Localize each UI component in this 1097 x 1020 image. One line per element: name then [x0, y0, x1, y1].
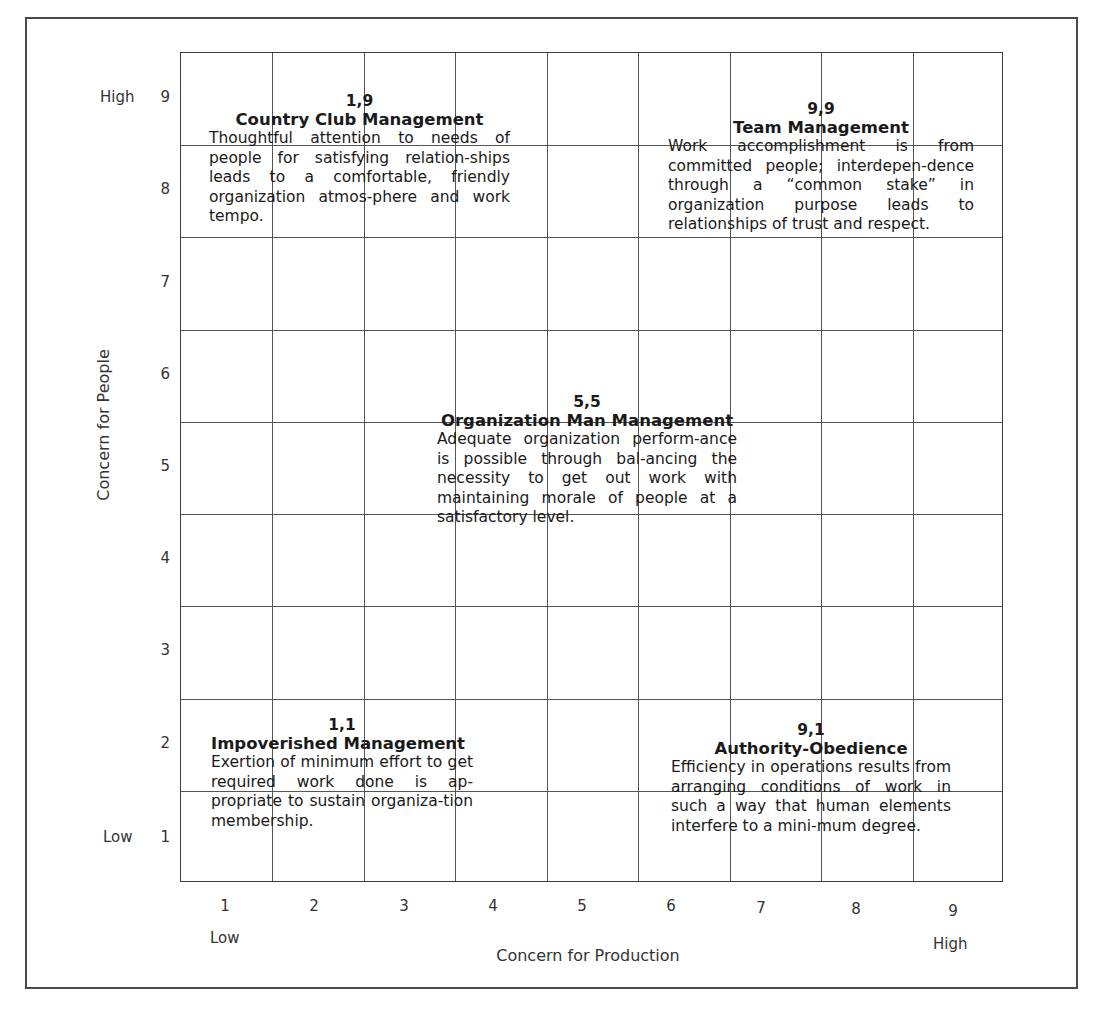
style-description: Efficiency in operations results from ar… [671, 758, 951, 836]
style-coordinate: 9,1 [671, 721, 951, 739]
x-axis-label: Concern for Production [496, 946, 679, 965]
style-coordinate: 5,5 [437, 393, 737, 411]
x-tick: 8 [841, 900, 871, 918]
grid-line-h [181, 606, 1002, 607]
style-coordinate: 9,9 [668, 100, 974, 118]
y-low-label: Low [103, 828, 133, 846]
x-tick: 4 [478, 897, 508, 915]
impoverished-management-box: 1,1 Impoverished Management Exertion of … [211, 716, 473, 831]
y-tick: 7 [150, 273, 170, 291]
style-description: Adequate organization perform-ance is po… [437, 430, 737, 528]
y-tick: 5 [150, 457, 170, 475]
grid-line-h [181, 237, 1002, 238]
style-description: Work accomplishment is from committed pe… [668, 137, 974, 235]
y-tick: 2 [150, 734, 170, 752]
x-tick: 3 [389, 897, 419, 915]
style-description: Exertion of minimum effort to get requir… [211, 753, 473, 831]
organization-man-management-box: 5,5 Organization Man Management Adequate… [437, 393, 737, 528]
y-tick: 8 [150, 180, 170, 198]
grid-line-h [181, 330, 1002, 331]
x-low-label: Low [210, 929, 240, 947]
style-coordinate: 1,1 [211, 716, 473, 734]
y-tick: 6 [150, 365, 170, 383]
x-tick: 2 [299, 897, 329, 915]
x-tick: 5 [567, 897, 597, 915]
style-name: Country Club Management [209, 110, 510, 129]
y-tick: 1 [150, 828, 170, 846]
y-high-label: High [100, 88, 134, 106]
x-tick: 1 [210, 897, 240, 915]
style-coordinate: 1,9 [209, 92, 510, 110]
x-tick: 9 [938, 902, 968, 920]
y-tick: 4 [150, 549, 170, 567]
x-high-label: High [933, 935, 967, 953]
authority-obedience-box: 9,1 Authority-Obedience Efficiency in op… [671, 721, 951, 836]
style-name: Impoverished Management [211, 734, 473, 753]
style-name: Organization Man Management [437, 411, 737, 430]
x-tick: 7 [746, 899, 776, 917]
country-club-management-box: 1,9 Country Club Management Thoughtful a… [209, 92, 510, 227]
style-name: Authority-Obedience [671, 739, 951, 758]
y-tick: 3 [150, 641, 170, 659]
style-name: Team Management [668, 118, 974, 137]
x-tick: 6 [656, 897, 686, 915]
y-tick: 9 [150, 88, 170, 106]
grid-line-h [181, 699, 1002, 700]
style-description: Thoughtful attention to needs of people … [209, 129, 510, 227]
team-management-box: 9,9 Team Management Work accomplishment … [668, 100, 974, 235]
y-axis-label: Concern for People [94, 349, 113, 501]
